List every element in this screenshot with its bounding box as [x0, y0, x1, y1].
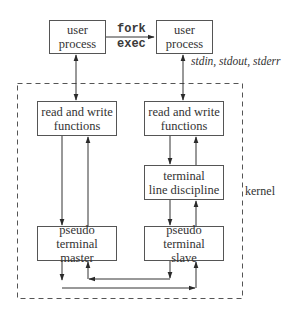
box-label: user	[166, 23, 204, 37]
box-label: process	[59, 37, 97, 51]
exec-label: exec	[117, 37, 146, 51]
box-label: slave	[145, 251, 223, 265]
pty-diagram: user process user process fork exec stdi…	[0, 0, 290, 317]
rw-functions-right-box: read and write functions	[144, 101, 224, 136]
pty-master-box: pseudo terminal master	[37, 226, 117, 261]
box-label: read and write	[148, 105, 220, 119]
box-label: functions	[148, 119, 220, 133]
box-label: pseudo terminal	[38, 223, 116, 251]
box-label: terminal	[149, 169, 219, 183]
user-process-left-box: user process	[49, 20, 106, 54]
box-label: process	[166, 37, 204, 51]
box-label: user	[59, 23, 97, 37]
box-label: master	[38, 251, 116, 265]
box-label: functions	[41, 119, 113, 133]
user-process-right-box: user process	[156, 20, 213, 54]
box-label: pseudo terminal	[145, 223, 223, 251]
box-label: line discipline	[149, 183, 219, 197]
pty-slave-box: pseudo terminal slave	[144, 226, 224, 261]
std-streams-label: stdin, stdout, stderr	[191, 55, 280, 67]
fork-label: fork	[117, 22, 146, 36]
kernel-label: kernel	[245, 184, 275, 199]
box-label: read and write	[41, 105, 113, 119]
line-discipline-box: terminal line discipline	[144, 165, 224, 200]
rw-functions-left-box: read and write functions	[37, 101, 117, 136]
